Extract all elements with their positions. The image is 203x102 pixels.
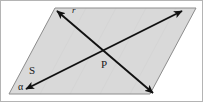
geometry-figure: r S P α: [0, 0, 203, 102]
point-p-label: P: [101, 58, 107, 70]
plane-alpha-label: α: [18, 81, 24, 92]
line-r-label: r: [72, 5, 76, 15]
figure-canvas: r S P α: [0, 0, 203, 102]
line-s-label: S: [29, 64, 35, 76]
